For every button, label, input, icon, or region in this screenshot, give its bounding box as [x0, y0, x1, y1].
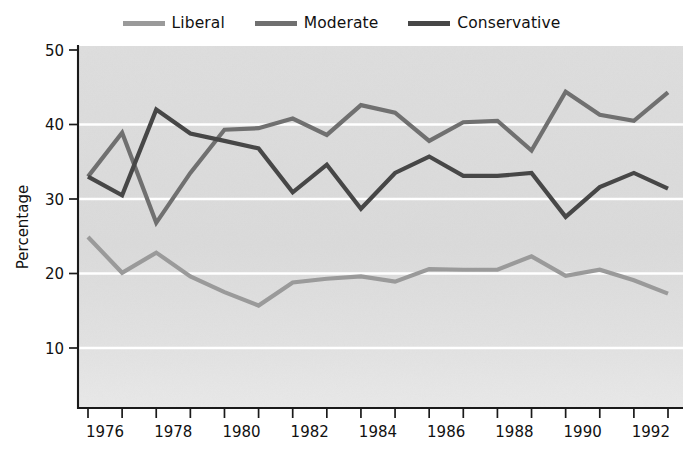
y-tick-label: 10: [45, 340, 64, 358]
y-tick-label: 40: [45, 116, 64, 134]
x-tick-label: 1990: [564, 423, 602, 441]
plot-area-wrapper: 1020304050 19761978198019821984198619881…: [0, 0, 683, 463]
x-tick-label: 1992: [632, 423, 670, 441]
y-tick-label: 30: [45, 191, 64, 209]
x-tick-label: 1976: [86, 423, 124, 441]
x-axis-ticks: 197619781980198219841986198819901992: [86, 408, 670, 441]
x-tick-label: 1982: [291, 423, 329, 441]
y-axis-title: Percentage: [14, 185, 32, 269]
y-tick-label: 20: [45, 265, 64, 283]
plot-svg: 1020304050 19761978198019821984198619881…: [0, 0, 683, 463]
x-tick-label: 1988: [495, 423, 533, 441]
x-tick-label: 1984: [359, 423, 397, 441]
x-tick-label: 1986: [427, 423, 465, 441]
x-tick-label: 1978: [154, 423, 192, 441]
x-tick-label: 1980: [222, 423, 260, 441]
line-chart: Liberal Moderate Conservative: [0, 0, 683, 463]
y-tick-label: 50: [45, 42, 64, 60]
y-axis-ticks: 1020304050: [45, 42, 78, 358]
plot-background: [78, 46, 683, 408]
